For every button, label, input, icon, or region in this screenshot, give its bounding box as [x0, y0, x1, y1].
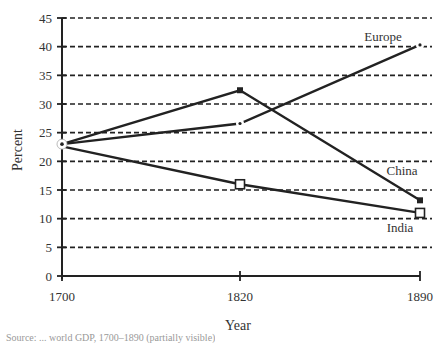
marker-open-square	[236, 180, 245, 189]
x-tick-label: 1700	[49, 289, 75, 304]
label-europe: Europe	[364, 29, 402, 44]
x-axis-tick-labels: 170018201890	[49, 289, 433, 304]
marker-filled-square	[417, 197, 423, 203]
y-tick-label: 35	[39, 68, 52, 83]
x-axis-title: Year	[225, 318, 251, 333]
marker-dot	[418, 43, 421, 46]
x-tick-label: 1820	[227, 289, 253, 304]
y-tick-label: 40	[39, 39, 52, 54]
y-tick-label: 0	[46, 269, 53, 284]
marker-open-square	[416, 208, 425, 217]
y-axis-tick-labels: 051015202530354045	[39, 11, 52, 284]
marker-filled-square	[237, 87, 243, 93]
y-axis-title: Percent	[10, 129, 25, 171]
label-china: China	[386, 163, 417, 178]
y-tick-label: 45	[39, 11, 52, 26]
y-tick-label: 25	[39, 125, 52, 140]
axes	[57, 18, 420, 281]
marker-origin-dot	[60, 142, 64, 146]
data-series	[57, 41, 425, 217]
y-tick-label: 5	[46, 240, 53, 255]
marker-dot	[238, 122, 241, 125]
x-tick-label: 1890	[407, 289, 433, 304]
line-chart: 051015202530354045 170018201890 Percent …	[0, 0, 445, 343]
label-india: India	[387, 220, 414, 235]
y-tick-label: 30	[39, 97, 52, 112]
series-line-europe	[62, 45, 420, 144]
y-tick-label: 15	[39, 183, 52, 198]
y-tick-label: 20	[39, 154, 52, 169]
source-caption: Source: ... world GDP, 1700–1890 (partia…	[6, 333, 215, 343]
y-tick-label: 10	[39, 211, 52, 226]
gridlines	[62, 18, 432, 247]
